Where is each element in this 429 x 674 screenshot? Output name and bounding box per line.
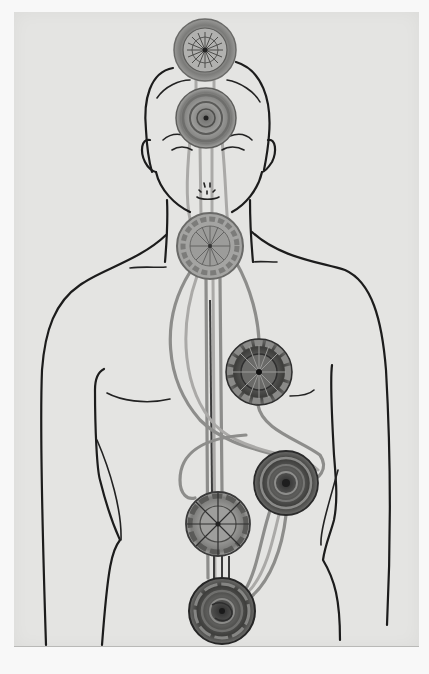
brow-disc — [176, 88, 236, 148]
crown-disc — [174, 19, 236, 81]
throat-disc — [177, 213, 243, 279]
sacral-disc — [186, 492, 250, 556]
solar-plexus-disc — [254, 451, 318, 515]
root-disc — [189, 578, 255, 644]
heart-disc — [226, 339, 292, 405]
chakra-figure-illustration — [0, 0, 429, 674]
